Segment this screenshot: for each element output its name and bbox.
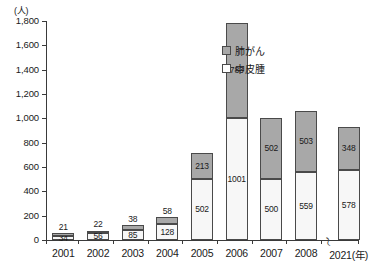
bar-value-lung-cancer-2005: 213 [195,162,209,171]
bar-value-mesothelioma-2021: 578 [342,201,356,210]
y-axis-tick-label: 200 [23,210,39,221]
x-axis-tick [182,240,183,244]
bar-value-mesothelioma-2005: 502 [195,205,209,214]
bar-value-mesothelioma-2004: 128 [161,228,175,237]
y-axis-tick: 600 [42,167,46,168]
legend-label: 肺がん [235,43,264,58]
bar-value-mesothelioma-2006: 1001 [228,175,246,184]
y-axis-tick: 1,600 [42,45,46,46]
bar-value-mesothelioma-2002: 56 [93,232,102,241]
bar-group-2021[interactable]: 578348 [338,127,360,240]
y-axis-tick-label: 600 [23,161,39,172]
bar-segment-lung-cancer-2004[interactable]: 58 [156,217,178,224]
x-axis-tick [217,240,218,244]
y-axis-tick: 1,400 [42,70,46,71]
bar-segment-lung-cancer-2007[interactable]: 502 [260,118,282,179]
bar-segment-mesothelioma-2003[interactable]: 85 [122,230,144,240]
x-axis-tick [148,240,149,244]
bar-value-mesothelioma-2007: 500 [265,205,279,214]
bar-value-lung-cancer-2007: 502 [265,144,279,153]
axis-break-marker: 〜 [320,234,337,247]
bar-group-2008[interactable]: 559503 [295,111,317,240]
bar-segment-lung-cancer-2008[interactable]: 503 [295,111,317,172]
bar-group-2002[interactable]: 5622 [87,231,109,240]
bar-value-mesothelioma-2008: 559 [299,202,313,211]
bar-segment-lung-cancer-2005[interactable]: 213 [191,153,213,179]
y-axis-tick-label: 1,400 [16,64,39,75]
y-axis-tick-label: 400 [23,185,39,196]
legend-label: 中皮腫 [235,61,264,76]
x-axis-tick [358,240,359,244]
plot-area: 02004006008001,0001,2001,4001,6001,800 2… [46,21,358,240]
bar-segment-mesothelioma-2006[interactable]: 1001 [226,118,248,240]
bar-value-mesothelioma-2003: 85 [128,231,137,240]
y-axis-tick-label: 1,000 [16,112,39,123]
bar-segment-mesothelioma-2021[interactable]: 578 [338,170,360,240]
bar-value-lung-cancer-2004: 58 [163,207,172,216]
bar-value-lung-cancer-2001: 21 [59,223,68,232]
y-axis-line [46,21,47,240]
bar-segment-mesothelioma-2005[interactable]: 502 [191,179,213,240]
x-axis-tick [46,240,47,244]
y-axis-tick: 400 [42,191,46,192]
y-axis-tick: 800 [42,143,46,144]
x-axis-tick [252,240,253,244]
y-axis-tick: 1,800 [42,21,46,22]
x-axis-tick [78,240,79,244]
y-axis-tick-label: 0 [34,234,39,245]
bar-group-2007[interactable]: 500502 [260,118,282,240]
bar-group-2003[interactable]: 8538 [122,225,144,240]
bar-segment-mesothelioma-2002[interactable]: 56 [87,233,109,240]
bar-segment-mesothelioma-2004[interactable]: 128 [156,224,178,240]
y-axis-tick: 1,000 [42,118,46,119]
x-axis-tick [113,240,114,244]
chart-legend: 肺がん中皮腫 [222,43,264,79]
y-axis-tick-label: 1,800 [16,15,39,26]
legend-swatch-icon [222,46,231,55]
bar-segment-mesothelioma-2008[interactable]: 559 [295,172,317,240]
bar-value-lung-cancer-2021: 348 [342,144,356,153]
y-axis-tick-label: 1,600 [16,39,39,50]
y-axis-tick-label: 1,200 [16,88,39,99]
bar-segment-lung-cancer-2001[interactable]: 21 [52,233,74,236]
x-axis-tick [286,240,287,244]
bar-segment-lung-cancer-2002[interactable]: 22 [87,231,109,234]
y-axis-tick-label: 800 [23,137,39,148]
bar-group-2001[interactable]: 3421 [52,233,74,240]
bar-value-lung-cancer-2003: 38 [128,215,137,224]
bar-group-2005[interactable]: 502213 [191,153,213,240]
bar-segment-lung-cancer-2021[interactable]: 348 [338,127,360,169]
bar-segment-lung-cancer-2003[interactable]: 38 [122,225,144,230]
legend-swatch-icon [222,64,231,73]
x-axis-tick-label-2021: 2021(年) [319,247,373,262]
y-axis-tick: 200 [42,216,46,217]
bar-value-lung-cancer-2002: 22 [93,220,102,229]
bar-group-2004[interactable]: 12858 [156,217,178,240]
bar-segment-mesothelioma-2007[interactable]: 500 [260,179,282,240]
y-axis-tick: 1,200 [42,94,46,95]
bar-value-lung-cancer-2008: 503 [299,137,313,146]
legend-item-mesothelioma[interactable]: 中皮腫 [222,61,264,76]
legend-item-lung-cancer[interactable]: 肺がん [222,43,264,58]
bar-segment-mesothelioma-2001[interactable]: 34 [52,236,74,240]
